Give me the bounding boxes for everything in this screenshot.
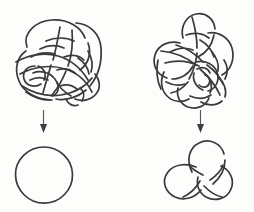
knot-figure: Knot diagram simplification Two complica… xyxy=(0,0,254,212)
figure-canvas xyxy=(0,0,254,212)
